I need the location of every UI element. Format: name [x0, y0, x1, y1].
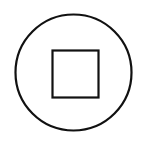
- stop-icon: [0, 0, 143, 146]
- stop-square-glyph: [53, 51, 99, 98]
- stop-button[interactable]: Stop: [0, 0, 143, 146]
- button-outline-circle: [16, 15, 132, 131]
